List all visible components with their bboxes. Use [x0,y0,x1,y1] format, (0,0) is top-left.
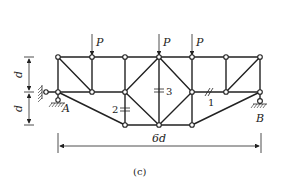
support-a-label: A [61,102,70,115]
member-3-label: 3 [166,86,172,97]
height-upper-label: d [12,71,25,78]
load-label: P [195,36,204,49]
height-dimension: d d [12,57,34,125]
height-lower-label: d [12,105,25,112]
support-b: B [251,92,267,125]
figure-caption: (c) [133,166,147,177]
support-a: A [38,85,70,115]
span-label: 6d [152,132,166,145]
support-b-label: B [255,112,264,125]
member-1-label: 1 [208,97,214,108]
load-label: P [162,36,171,49]
truss-diagram: 1 2 3 P P P A [0,0,285,184]
span-dimension: 6d [58,132,261,153]
load-label: P [95,36,104,49]
member-2-label: 2 [112,104,118,115]
loads: P P P [92,34,204,55]
truss-members [58,57,260,125]
